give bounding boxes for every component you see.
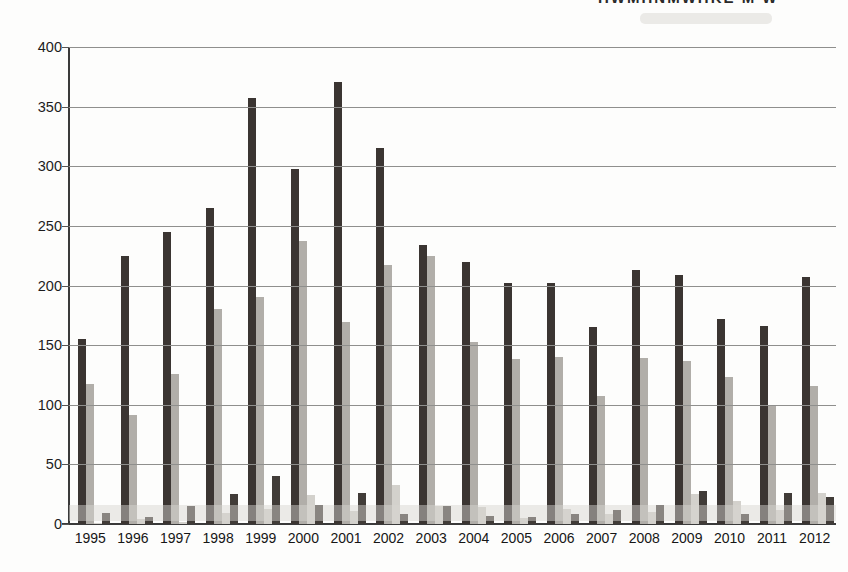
bar-series-1-dark-tall-2006: [547, 283, 555, 524]
y-tick-mark: [62, 166, 69, 167]
x-tick-label: 2001: [330, 530, 361, 546]
bar-series-4-dark-small-2008: [656, 505, 664, 524]
y-tick-label: 350: [20, 99, 62, 115]
y-tick-mark: [62, 405, 69, 406]
x-tick-label: 2006: [543, 530, 574, 546]
bar-series-1-dark-tall-2002: [376, 148, 384, 524]
bar-series-4-dark-small-2009: [699, 491, 707, 524]
bar-series-1-dark-tall-1995: [78, 339, 86, 524]
x-tick-label: 2000: [288, 530, 319, 546]
bar-series-3-light-gray-2010: [733, 501, 741, 524]
bar-series-1-dark-tall-2004: [462, 262, 470, 524]
bar-series-3-light-gray-2001: [350, 511, 358, 524]
x-tick-label: 1998: [203, 530, 234, 546]
bar-series-3-light-gray-2005: [520, 518, 528, 524]
bar-series-3-light-gray-2009: [691, 494, 699, 524]
bar-series-4-dark-small-2001: [358, 493, 366, 524]
bar-series-4-dark-small-2006: [571, 514, 579, 524]
bar-series-4-dark-small-2010: [741, 514, 749, 524]
bar-series-1-dark-tall-2011: [760, 326, 768, 524]
bar-series-2-gray-2010: [725, 377, 733, 524]
scan-smudge: [640, 13, 772, 24]
x-tick-label: 1995: [75, 530, 106, 546]
y-tick-mark: [62, 226, 69, 227]
bar-series-3-light-gray-2002: [392, 485, 400, 524]
bar-series-1-dark-tall-1999: [248, 98, 256, 524]
bar-series-2-gray-1996: [129, 415, 137, 524]
bar-series-2-gray-2007: [597, 396, 605, 524]
bar-series-1-dark-tall-2010: [717, 319, 725, 524]
bar-series-4-dark-small-1997: [187, 506, 195, 524]
bar-series-1-dark-tall-2008: [632, 270, 640, 524]
y-tick-label: 150: [20, 337, 62, 353]
bar-series-2-gray-2003: [427, 256, 435, 524]
x-tick-label: 2007: [586, 530, 617, 546]
bar-series-2-gray-2004: [470, 342, 478, 524]
bar-series-2-gray-2001: [342, 322, 350, 524]
gridline: [69, 286, 836, 287]
bar-series-4-dark-small-1995: [102, 513, 110, 524]
bar-series-2-gray-2005: [512, 359, 520, 524]
bar-series-4-dark-small-1998: [230, 494, 238, 524]
gridline: [69, 345, 836, 346]
bar-series-3-light-gray-1995: [94, 523, 102, 524]
bar-series-4-dark-small-2004: [486, 516, 494, 524]
bar-series-4-dark-small-2002: [400, 514, 408, 524]
bar-series-1-dark-tall-1996: [121, 256, 129, 524]
bar-series-2-gray-2012: [810, 386, 818, 524]
y-tick-label: 250: [20, 218, 62, 234]
bar-series-2-gray-2002: [384, 265, 392, 524]
bar-series-3-light-gray-2004: [478, 507, 486, 524]
x-tick-label: 2011: [757, 530, 787, 546]
bar-series-2-gray-2009: [683, 361, 691, 524]
bar-series-1-dark-tall-1998: [206, 208, 214, 524]
bar-series-3-light-gray-1998: [222, 513, 230, 524]
gridline: [69, 405, 836, 406]
bar-series-4-dark-small-2012: [826, 497, 834, 524]
bar-chart: HWMHNMWHKE M W 050100150200250300350400 …: [0, 0, 848, 572]
bar-series-1-dark-tall-2005: [504, 283, 512, 524]
bar-series-3-light-gray-2000: [307, 495, 315, 524]
x-tick-label: 2009: [671, 530, 702, 546]
x-tick-label: 2005: [501, 530, 532, 546]
bar-series-2-gray-1997: [171, 374, 179, 524]
y-tick-label: 400: [20, 39, 62, 55]
bar-series-4-dark-small-1999: [272, 476, 280, 524]
bar-series-3-light-gray-2012: [818, 493, 826, 524]
x-tick-label: 1996: [117, 530, 148, 546]
y-tick-mark: [62, 524, 69, 525]
x-tick-label: 2012: [799, 530, 830, 546]
bar-series-3-light-gray-2011: [776, 510, 784, 524]
gridline: [69, 166, 836, 167]
bar-series-3-light-gray-2008: [648, 512, 656, 524]
bar-series-2-gray-2008: [640, 358, 648, 524]
bar-series-3-light-gray-1999: [264, 509, 272, 525]
x-tick-label: 2010: [714, 530, 745, 546]
bar-series-1-dark-tall-2009: [675, 275, 683, 524]
bar-series-2-gray-1998: [214, 309, 222, 524]
bar-series-4-dark-small-2011: [784, 493, 792, 524]
x-tick-label: 2004: [458, 530, 489, 546]
x-tick-label: 2003: [416, 530, 447, 546]
bar-series-2-gray-2006: [555, 357, 563, 524]
bar-series-4-dark-small-2003: [443, 506, 451, 524]
bar-series-1-dark-tall-2012: [802, 277, 810, 524]
y-tick-mark: [62, 345, 69, 346]
bar-series-3-light-gray-2007: [605, 514, 613, 524]
bar-series-2-gray-2000: [299, 241, 307, 524]
bar-series-4-dark-small-2005: [528, 517, 536, 524]
y-tick-label: 50: [20, 456, 62, 472]
gridline: [69, 107, 836, 108]
clipped-legend-text: HWMHNMWHKE M W: [598, 0, 778, 6]
x-axis-labels: 1995199619971998199920002001200220032004…: [69, 530, 836, 548]
y-tick-mark: [62, 107, 69, 108]
bar-series-1-dark-tall-1997: [163, 232, 171, 524]
bar-series-3-light-gray-1996: [137, 519, 145, 524]
bar-series-2-gray-1999: [256, 297, 264, 524]
y-tick-label: 100: [20, 397, 62, 413]
y-tick-label: 300: [20, 158, 62, 174]
plot-area: [69, 47, 836, 524]
x-tick-label: 1997: [160, 530, 191, 546]
y-tick-mark: [62, 47, 69, 48]
y-tick-mark: [62, 464, 69, 465]
